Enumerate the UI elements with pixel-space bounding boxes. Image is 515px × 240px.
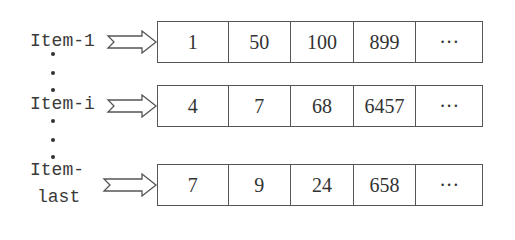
row-label-item-1: Item-1 [30, 31, 95, 51]
ellipsis-dot [51, 71, 55, 75]
arrow-right-icon [106, 30, 158, 54]
array-cell: 7 [229, 86, 292, 126]
ellipsis-dot [51, 52, 55, 56]
array-cell-ellipsis: ··· [416, 22, 482, 62]
array-cell: 100 [291, 22, 354, 62]
array-row-item-last: 7 9 24 658 ··· [157, 164, 483, 206]
arrow-right-icon [106, 94, 158, 118]
array-cell: 50 [229, 22, 292, 62]
array-cell: 9 [229, 165, 292, 205]
row-label-item-i: Item-i [30, 94, 95, 114]
arrow-right-icon [102, 173, 158, 197]
ellipsis-dot [51, 119, 55, 123]
array-cell-ellipsis: ··· [416, 165, 482, 205]
row-label-item-last-line1: Item- [30, 160, 84, 180]
array-row-item-i: 4 7 68 6457 ··· [157, 85, 483, 127]
array-cell: 7 [158, 165, 229, 205]
array-row-item-1: 1 50 100 899 ··· [157, 21, 483, 63]
ellipsis-dot [51, 155, 55, 159]
array-cell: 1 [158, 22, 229, 62]
array-cell: 68 [291, 86, 354, 126]
array-cell: 24 [291, 165, 354, 205]
array-cell: 4 [158, 86, 229, 126]
array-cell: 899 [354, 22, 417, 62]
array-cell: 6457 [354, 86, 417, 126]
ellipsis-dot [51, 138, 55, 142]
row-label-item-last-line2: last [37, 187, 80, 207]
array-cell-ellipsis: ··· [416, 86, 482, 126]
ellipsis-dot [51, 88, 55, 92]
array-cell: 658 [354, 165, 417, 205]
